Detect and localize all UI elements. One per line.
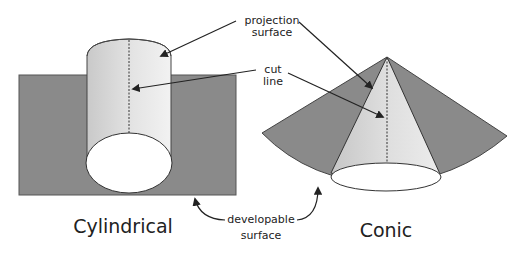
projection-diagram: projection surface cut line developable …: [0, 0, 527, 254]
conic-group: [262, 57, 507, 191]
label-developable-surface-1: developable: [227, 213, 295, 226]
cylinder-base-opening: [86, 133, 172, 193]
cylindrical-group: [19, 39, 236, 195]
label-cylindrical: Cylindrical: [73, 215, 173, 237]
label-cut-line-2: line: [263, 75, 283, 88]
arrow-projection-to-cylinder: [161, 21, 236, 56]
arrow-developable-to-plane: [195, 199, 225, 220]
cone-base-opening: [331, 163, 441, 191]
label-projection-surface-2: surface: [252, 26, 293, 39]
label-conic: Conic: [360, 219, 413, 241]
label-developable-surface-2: surface: [241, 229, 282, 242]
arrow-developable-to-sector: [297, 188, 318, 220]
arrow-projection-to-cone: [299, 22, 372, 88]
